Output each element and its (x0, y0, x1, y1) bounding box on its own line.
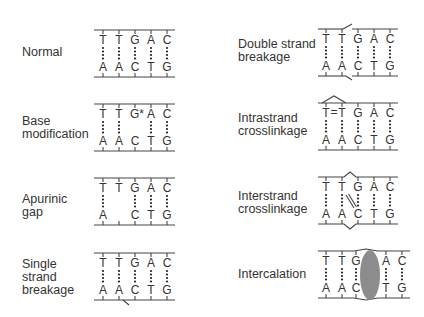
svg-text:C: C (131, 283, 140, 297)
svg-text:A: A (338, 59, 346, 73)
svg-text:G: G (130, 181, 139, 195)
svg-text:T: T (370, 59, 378, 73)
svg-text:T: T (99, 33, 107, 47)
svg-text:T: T (322, 32, 330, 46)
svg-text:T: T (338, 254, 346, 268)
svg-text:A: A (322, 59, 330, 73)
svg-text:T: T (115, 33, 123, 47)
svg-text:C: C (163, 256, 172, 270)
svg-text:C: C (386, 32, 395, 46)
svg-text:A: A (147, 107, 155, 121)
svg-text:C: C (398, 254, 407, 268)
svg-text:T: T (147, 208, 155, 222)
svg-text:A: A (99, 60, 107, 74)
panel-double-strand-breakage: TTGAC AACTG (318, 24, 398, 80)
panel-base-modification: TTG*AC AACTG (94, 104, 175, 151)
svg-text:T: T (99, 256, 107, 270)
panel-interstrand-crosslinkage: TTGAC AACTG (318, 172, 398, 229)
svg-text:G: G (397, 281, 406, 295)
svg-text:A: A (322, 207, 330, 221)
svg-text:G: G (162, 60, 171, 74)
svg-text:G: G (162, 134, 171, 148)
panel-apurinic-gap: TTGAC ACTG (94, 178, 175, 225)
panel-normal: TTGAC AACTG (94, 30, 175, 77)
svg-text:T: T (382, 281, 390, 295)
svg-text:A: A (99, 134, 107, 148)
svg-text:A: A (338, 133, 346, 147)
dna-diagrams: TTGAC AACTG TTG*AC AACTG TTGAC ACTG (0, 0, 424, 317)
svg-text:A: A (99, 283, 107, 297)
svg-text:C: C (354, 133, 363, 147)
svg-text:C: C (352, 281, 361, 295)
svg-text:C: C (163, 33, 172, 47)
svg-text:G: G (385, 207, 394, 221)
svg-text:A: A (147, 181, 155, 195)
svg-text:G: G (162, 283, 171, 297)
svg-text:C: C (131, 208, 140, 222)
svg-text:A: A (338, 281, 346, 295)
svg-text:C: C (354, 59, 363, 73)
svg-text:G: G (385, 133, 394, 147)
svg-text:T: T (338, 106, 346, 120)
svg-text:T: T (370, 133, 378, 147)
svg-text:T: T (147, 60, 155, 74)
svg-text:G: G (353, 180, 362, 194)
svg-text:G: G (385, 59, 394, 73)
svg-text:T: T (147, 134, 155, 148)
svg-text:T: T (99, 107, 107, 121)
svg-text:A: A (115, 134, 123, 148)
panel-intrastrand-crosslinkage: T=TGAC AACTG (318, 96, 398, 150)
svg-text:A: A (115, 60, 123, 74)
svg-text:T: T (322, 106, 330, 120)
svg-text:C: C (163, 107, 172, 121)
svg-text:C: C (131, 134, 140, 148)
svg-text:T: T (115, 181, 123, 195)
svg-text:T: T (322, 180, 330, 194)
svg-text:G: G (130, 33, 139, 47)
intercalator-ellipse (360, 250, 380, 300)
svg-text:A: A (322, 133, 330, 147)
svg-text:G: G (353, 106, 362, 120)
svg-text:A: A (147, 33, 155, 47)
svg-text:T: T (115, 256, 123, 270)
svg-text:=: = (330, 105, 337, 119)
svg-text:C: C (386, 106, 395, 120)
svg-text:G: G (130, 256, 139, 270)
svg-text:A: A (338, 207, 346, 221)
svg-text:G: G (353, 32, 362, 46)
svg-text:T: T (370, 207, 378, 221)
svg-text:A: A (370, 180, 378, 194)
svg-text:C: C (386, 180, 395, 194)
svg-text:A: A (115, 283, 123, 297)
svg-text:A: A (382, 254, 390, 268)
panel-intercalation: TTGAC AACTG (318, 249, 410, 300)
svg-text:G*: G* (130, 107, 144, 121)
svg-text:T: T (338, 180, 346, 194)
svg-text:T: T (147, 283, 155, 297)
svg-text:C: C (131, 60, 140, 74)
svg-text:T: T (99, 181, 107, 195)
svg-text:T: T (338, 32, 346, 46)
svg-text:A: A (370, 32, 378, 46)
svg-text:A: A (322, 281, 330, 295)
svg-text:C: C (163, 181, 172, 195)
svg-text:A: A (147, 256, 155, 270)
svg-text:T: T (115, 107, 123, 121)
svg-text:A: A (99, 208, 107, 222)
svg-text:G: G (351, 254, 360, 268)
svg-text:A: A (370, 106, 378, 120)
svg-text:G: G (162, 208, 171, 222)
svg-text:T: T (322, 254, 330, 268)
svg-text:C: C (354, 207, 363, 221)
panel-single-strand-breakage: TTGAC AACTG (94, 253, 175, 305)
